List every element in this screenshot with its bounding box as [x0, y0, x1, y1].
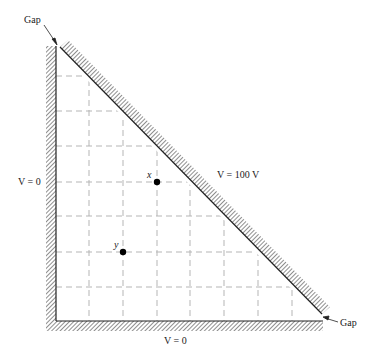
triangle-potential-diagram: Gap Gap V = 0 V = 0 V = 100 V x y [0, 0, 375, 362]
bottom-wall-label: V = 0 [164, 335, 187, 346]
point-y-label: y [113, 239, 119, 250]
bottom-wall [46, 321, 323, 331]
gap-top-label: Gap [24, 14, 41, 25]
gap-top-arrow [44, 25, 57, 45]
gap-bottom-label: Gap [340, 317, 357, 328]
point-y: y [113, 239, 126, 255]
point-x: x [146, 169, 160, 185]
left-wall [46, 46, 56, 331]
hypotenuse-label: V = 100 V [217, 169, 260, 180]
gap-bottom-arrow [323, 316, 338, 322]
hypotenuse-wall [60, 40, 330, 314]
left-wall-label: V = 0 [18, 176, 41, 187]
point-x-label: x [146, 169, 152, 180]
